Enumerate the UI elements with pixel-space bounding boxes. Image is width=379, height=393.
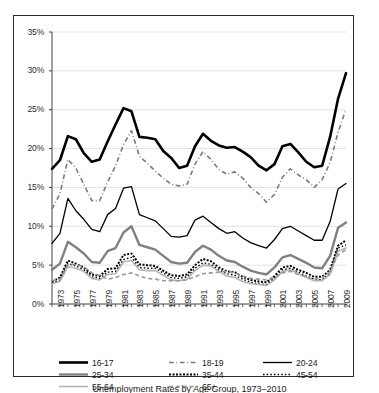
chart-frame: 35%30%25%20%15%10%5%0% 19731975197719791… bbox=[13, 15, 354, 377]
x-tick-label: 1989 bbox=[183, 290, 193, 308]
legend-item-35-44: 35-44 bbox=[168, 369, 223, 380]
legend-label: 25-34 bbox=[92, 370, 113, 380]
legend-label: 18-19 bbox=[202, 358, 223, 368]
x-tick-label: 1977 bbox=[88, 290, 98, 308]
y-tick-label: 15% bbox=[18, 182, 44, 192]
series-line-18-19 bbox=[52, 109, 346, 209]
y-tick-label: 25% bbox=[18, 104, 44, 114]
legend-swatch-icon bbox=[58, 369, 89, 380]
x-tick-label: 2009 bbox=[342, 290, 352, 308]
x-tick-label: 1979 bbox=[104, 290, 114, 308]
series-line-55-64 bbox=[52, 248, 346, 285]
figure-caption: Unemployment Rates by Age Group, 1973–20… bbox=[0, 384, 379, 393]
legend-item-20-24: 20-24 bbox=[262, 357, 317, 368]
x-tick-label: 1983 bbox=[135, 290, 145, 308]
x-tick-label: 1995 bbox=[231, 290, 241, 308]
y-tick-label: 0% bbox=[18, 299, 44, 309]
x-tick-label: 1991 bbox=[199, 290, 209, 308]
y-tick-label: 35% bbox=[18, 27, 44, 37]
legend-swatch-icon bbox=[168, 369, 199, 380]
x-tick-label: 1999 bbox=[263, 290, 273, 308]
x-tick-label: 1985 bbox=[151, 290, 161, 308]
legend-swatch-icon bbox=[168, 357, 199, 368]
legend-swatch-icon bbox=[262, 369, 293, 380]
legend-item-16-17: 16-17 bbox=[58, 357, 113, 368]
chart-plot-area bbox=[14, 16, 355, 378]
x-tick-label: 1997 bbox=[247, 290, 257, 308]
legend-swatch-icon bbox=[262, 357, 293, 368]
legend-item-18-19: 18-19 bbox=[168, 357, 223, 368]
legend-label: 35-44 bbox=[202, 370, 223, 380]
x-tick-label: 1993 bbox=[215, 290, 225, 308]
legend-label: 20-24 bbox=[296, 358, 317, 368]
data-series-group bbox=[52, 73, 346, 285]
legend-label: 45-54 bbox=[296, 370, 317, 380]
legend-row: 16-1718-1920-24 bbox=[58, 357, 358, 368]
y-tick-label: 30% bbox=[18, 65, 44, 75]
legend-label: 16-17 bbox=[92, 358, 113, 368]
legend-item-25-34: 25-34 bbox=[58, 369, 113, 380]
legend-row: 25-3435-4445-54 bbox=[58, 369, 358, 380]
x-tick-label: 1981 bbox=[120, 290, 130, 308]
x-tick-label: 2007 bbox=[326, 290, 336, 308]
series-line-16-17 bbox=[52, 73, 346, 170]
series-line-20-24 bbox=[52, 184, 346, 249]
figure-container: 35%30%25%20%15%10%5%0% 19731975197719791… bbox=[0, 0, 379, 393]
legend-item-45-54: 45-54 bbox=[262, 369, 317, 380]
y-tick-label: 20% bbox=[18, 143, 44, 153]
x-tick-label: 2001 bbox=[278, 290, 288, 308]
legend-swatch-icon bbox=[58, 357, 89, 368]
x-tick-label: 2003 bbox=[294, 290, 304, 308]
x-tick-label: 1987 bbox=[167, 290, 177, 308]
x-tick-label: 1973 bbox=[56, 290, 66, 308]
y-tick-label: 10% bbox=[18, 221, 44, 231]
x-tick-label: 2005 bbox=[310, 290, 320, 308]
x-tick-label: 1975 bbox=[72, 290, 82, 308]
y-tick-label: 5% bbox=[18, 260, 44, 270]
